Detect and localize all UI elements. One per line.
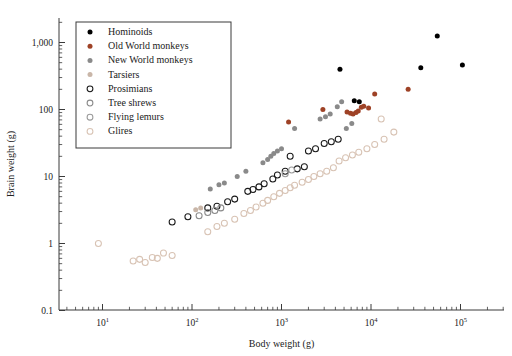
legend-label: Old World monkeys (108, 40, 189, 51)
data-point (196, 213, 202, 219)
data-point (286, 120, 291, 125)
legend-marker-filled-circle-gray (88, 58, 93, 63)
data-point (335, 136, 341, 142)
data-point (243, 169, 248, 174)
x-tick-label: 101 (96, 316, 109, 329)
data-point (271, 194, 277, 200)
data-point (130, 258, 136, 264)
data-point (328, 111, 333, 116)
data-point (349, 152, 355, 158)
data-point (343, 155, 349, 161)
data-point (232, 196, 238, 202)
legend-marker-filled-circle-tan (88, 72, 93, 77)
y-tick-label: 100 (39, 105, 54, 115)
data-point (222, 180, 227, 185)
data-point (328, 139, 334, 145)
data-point (366, 106, 371, 111)
data-point (305, 148, 311, 154)
legend-label: Glires (108, 125, 133, 136)
data-point (337, 67, 342, 72)
data-point (225, 199, 231, 205)
data-point (292, 126, 297, 131)
legend-label: Prosimians (108, 83, 153, 94)
data-point (277, 190, 283, 196)
data-point (241, 211, 247, 217)
plot-legend: HominoidsOld World monkeysNew World monk… (76, 22, 231, 148)
data-point (208, 187, 213, 192)
y-tick-label: 10 (44, 172, 54, 182)
data-point (299, 179, 305, 185)
data-point (218, 205, 224, 211)
data-point (321, 141, 327, 147)
legend-marker-filled-circle-black (88, 30, 93, 35)
data-point (279, 146, 284, 151)
data-point (381, 136, 387, 142)
data-point (349, 121, 354, 126)
data-point (260, 160, 265, 165)
x-tick-label: 102 (186, 316, 199, 329)
data-point (287, 153, 293, 159)
legend-label: Tarsiers (108, 69, 140, 80)
data-point (320, 107, 325, 112)
data-point (193, 207, 198, 212)
data-point (235, 174, 240, 179)
data-point (361, 104, 366, 109)
data-point (274, 172, 280, 178)
data-point (265, 197, 271, 203)
data-point (318, 117, 323, 122)
data-point (364, 146, 370, 152)
data-point (435, 34, 440, 39)
y-tick-label: 1 (48, 239, 53, 249)
data-point (137, 256, 143, 262)
legend-label: Flying lemurs (108, 111, 164, 122)
data-point (253, 204, 259, 210)
data-point (185, 214, 191, 220)
y-axis-title: Brain weight (g) (5, 131, 17, 197)
data-point (294, 166, 300, 172)
data-point (169, 253, 175, 259)
data-point (205, 229, 211, 235)
data-point (261, 181, 267, 187)
data-point (352, 98, 357, 103)
x-tick-label: 103 (275, 316, 288, 329)
y-tick-label: 1,000 (32, 38, 54, 48)
data-point (221, 220, 227, 226)
data-point (198, 205, 203, 210)
data-point (460, 63, 465, 68)
x-tick-label: 104 (365, 316, 379, 329)
data-point (418, 65, 423, 70)
data-point (216, 182, 221, 187)
chart-figure: 1011021031041051,0001001010.1 HominoidsO… (0, 0, 512, 356)
data-point (142, 260, 148, 266)
legend-marker-filled-circle-red (88, 44, 93, 49)
x-axis-title: Body weight (g) (249, 338, 315, 350)
data-point (406, 87, 411, 92)
data-point (301, 164, 307, 170)
data-point (372, 92, 377, 97)
data-point (214, 223, 220, 229)
data-point (232, 216, 238, 222)
data-point (160, 250, 166, 256)
data-point (335, 104, 340, 109)
data-point (324, 168, 330, 174)
legend-label: Hominoids (108, 26, 153, 37)
data-point (344, 126, 349, 131)
data-point (356, 149, 362, 155)
data-point (289, 167, 295, 173)
data-point (313, 146, 319, 152)
x-tick-label: 105 (454, 316, 467, 329)
data-point (247, 208, 253, 214)
data-point (357, 99, 362, 104)
data-point (391, 129, 397, 135)
data-point (378, 116, 384, 122)
data-point (372, 142, 378, 148)
data-point (336, 158, 342, 164)
data-point (95, 241, 101, 247)
legend-label: Tree shrews (108, 97, 156, 108)
y-tick-label: 0.1 (41, 306, 53, 316)
scatter-plot-svg: 1011021031041051,0001001010.1 HominoidsO… (0, 0, 512, 356)
data-point (339, 99, 344, 104)
data-point (323, 114, 328, 119)
data-point (317, 171, 323, 177)
data-point (250, 186, 256, 192)
